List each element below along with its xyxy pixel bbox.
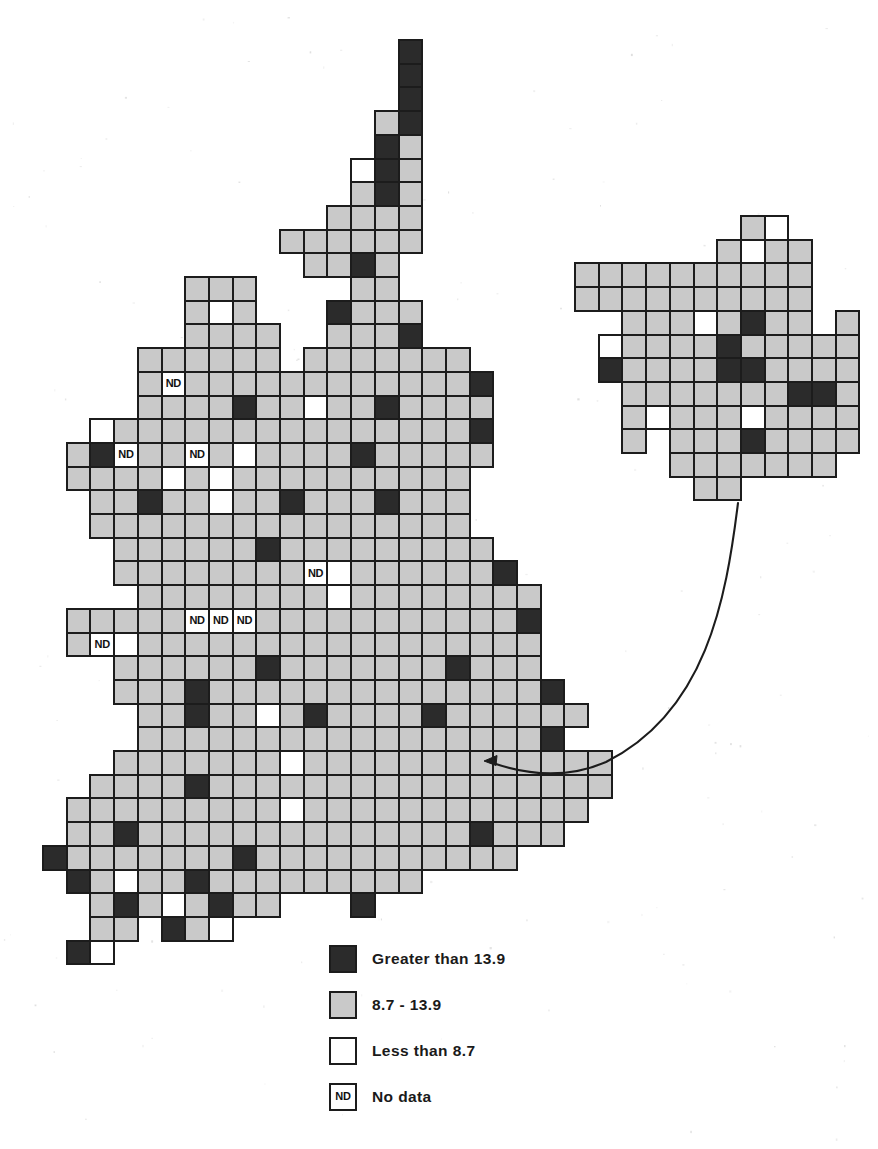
inset-map-cell <box>788 429 812 453</box>
paper-speck <box>603 182 605 183</box>
main-map-cell <box>399 396 423 420</box>
main-map-cell <box>304 253 328 277</box>
main-map-cell <box>446 846 470 870</box>
main-map-cell <box>351 467 375 491</box>
inset-map-cell <box>836 382 860 406</box>
main-map-cell <box>90 775 114 799</box>
main-map-cell <box>446 751 470 775</box>
main-map-cell <box>399 846 423 870</box>
main-map-cell <box>517 798 541 822</box>
main-map-cell <box>399 372 423 396</box>
inset-map-cell <box>812 382 836 406</box>
main-map-cell <box>375 775 399 799</box>
inset-map-cell <box>765 263 789 287</box>
main-map-cell <box>422 775 446 799</box>
paper-speck <box>13 123 14 125</box>
main-map-cell <box>256 419 280 443</box>
inset-map-cell <box>622 287 646 311</box>
paper-speck <box>597 400 599 401</box>
main-map-cell <box>233 514 257 538</box>
main-map-cell <box>470 585 494 609</box>
main-map-cell <box>422 348 446 372</box>
main-map-cell <box>399 585 423 609</box>
inset-map-cell <box>575 263 599 287</box>
main-map-cell <box>280 775 304 799</box>
main-map-cell <box>422 585 446 609</box>
main-map-cell <box>493 633 517 657</box>
main-map-cell <box>185 704 209 728</box>
main-map-cell <box>138 893 162 917</box>
paper-speck <box>600 205 601 207</box>
inset-map-cell <box>622 429 646 453</box>
main-map-cell <box>162 538 186 562</box>
inset-map-cell <box>622 335 646 359</box>
main-map-cell <box>138 419 162 443</box>
main-map-cell <box>351 159 375 183</box>
main-map-cell <box>256 348 280 372</box>
inset-map-cell <box>670 406 694 430</box>
main-map-cell <box>422 467 446 491</box>
inset-map-cell <box>717 477 741 501</box>
main-map-cell <box>422 443 446 467</box>
main-map-cell <box>90 490 114 514</box>
main-map-cell <box>233 775 257 799</box>
main-map-cell <box>327 514 351 538</box>
main-map-cell <box>493 585 517 609</box>
paper-speck <box>729 990 731 992</box>
main-map-cell <box>162 467 186 491</box>
main-map-cell <box>114 822 138 846</box>
inset-map-cell <box>717 406 741 430</box>
main-map-cell <box>209 751 233 775</box>
paper-speck <box>715 752 716 754</box>
main-map-cell <box>399 467 423 491</box>
main-map-cell <box>256 609 280 633</box>
main-map-cell <box>114 917 138 941</box>
paper-speck <box>340 50 342 51</box>
inset-map-cell <box>670 335 694 359</box>
inset-map-cell <box>717 358 741 382</box>
paper-speck <box>323 66 324 68</box>
inset-map-cell <box>812 358 836 382</box>
main-map-cell <box>209 798 233 822</box>
paper-speck <box>116 990 117 991</box>
inset-map-cell <box>646 311 670 335</box>
paper-speck <box>740 745 742 747</box>
main-map-cell <box>517 633 541 657</box>
main-map-cell <box>162 348 186 372</box>
paper-speck <box>826 28 828 29</box>
paper-speck <box>35 1005 37 1007</box>
main-map-cell <box>493 561 517 585</box>
inset-map-cell <box>836 429 860 453</box>
main-map-cell <box>233 277 257 301</box>
paper-speck <box>472 212 473 213</box>
main-map-cell <box>327 561 351 585</box>
paper-speck <box>845 268 846 269</box>
main-map-cell <box>470 798 494 822</box>
main-map-cell <box>470 419 494 443</box>
main-map-cell <box>256 490 280 514</box>
paper-speck <box>760 576 761 578</box>
main-map-cell <box>90 514 114 538</box>
main-map-cell <box>185 680 209 704</box>
main-map-cell <box>138 561 162 585</box>
main-map-cell <box>209 301 233 325</box>
legend-label-high: Greater than 13.9 <box>372 950 505 967</box>
main-map-cell <box>470 656 494 680</box>
inset-map-cell <box>741 240 765 264</box>
paper-speck <box>844 1060 845 1062</box>
main-map-cell <box>351 182 375 206</box>
paper-speck <box>56 957 58 958</box>
main-map-cell <box>209 585 233 609</box>
paper-speck <box>296 360 297 361</box>
main-map-cell <box>375 727 399 751</box>
main-map-cell <box>493 846 517 870</box>
main-map-cell <box>90 419 114 443</box>
paper-speck <box>81 158 82 159</box>
main-map-cell <box>90 870 114 894</box>
main-map-cell <box>162 917 186 941</box>
paper-speck <box>57 720 58 721</box>
main-map-cell <box>185 324 209 348</box>
paper-speck <box>125 97 127 99</box>
no-data-label: ND <box>166 377 182 389</box>
main-map-cell <box>209 419 233 443</box>
